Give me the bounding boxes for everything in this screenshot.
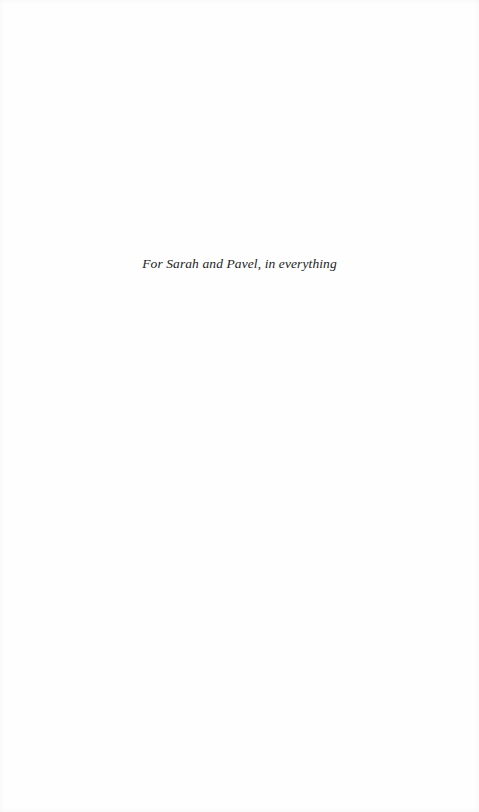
book-page: For Sarah and Pavel, in everything [0,0,479,812]
dedication-text: For Sarah and Pavel, in everything [0,256,479,272]
